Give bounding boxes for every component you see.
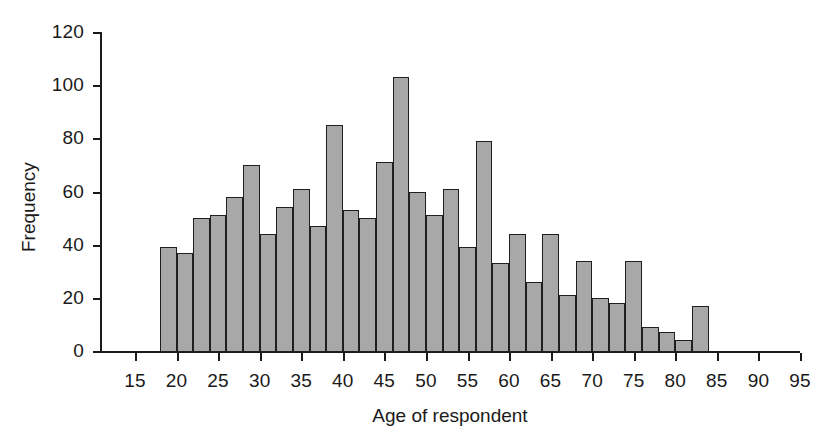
histogram-bar [542,234,559,352]
x-axis-tick [468,353,470,361]
histogram-bar [359,218,376,352]
x-axis-tick [218,353,220,361]
y-axis-tick [93,192,100,194]
x-axis-tick [384,353,386,361]
y-axis-tick [93,351,100,353]
histogram-bar [559,295,576,352]
x-axis-tick [717,353,719,361]
histogram-bar [476,141,493,352]
histogram-bar [260,234,277,352]
histogram-bar [343,210,360,352]
histogram-bar [243,165,260,352]
histogram-bar [409,192,426,353]
plot-area: 0204060801001201520253035404550556065707… [0,0,831,441]
y-axis-line [100,32,102,353]
histogram-bar [326,125,343,352]
y-axis-tick-label: 0 [22,341,84,360]
x-axis-tick [343,353,345,361]
histogram-bar [443,189,460,352]
histogram-bar [293,189,310,352]
x-axis-tick [426,353,428,361]
histogram-bar [177,253,194,352]
histogram-bar [659,332,676,352]
histogram-bar [393,77,410,352]
histogram-bar [625,261,642,352]
histogram-bar [609,303,626,352]
y-axis-tick-label: 80 [22,128,84,147]
y-axis-tick [93,298,100,300]
histogram-bar [642,327,659,352]
y-axis-tick-label: 20 [22,288,84,307]
x-axis-tick [758,353,760,361]
histogram-bar [276,207,293,352]
x-axis-tick-label: 95 [775,371,825,390]
x-axis-tick [509,353,511,361]
y-axis-tick [93,245,100,247]
y-axis-tick [93,32,100,34]
x-axis-tick [301,353,303,361]
x-axis-tick [135,353,137,361]
histogram-bar [226,197,243,352]
histogram-bar [592,298,609,352]
y-axis-tick-label: 120 [22,22,84,41]
y-axis-tick [93,85,100,87]
histogram-bar [459,247,476,352]
histogram-bar [310,226,327,352]
x-axis-tick [260,353,262,361]
histogram-bar [426,215,443,352]
histogram-figure: 0204060801001201520253035404550556065707… [0,0,831,441]
x-axis-tick [592,353,594,361]
histogram-bar [210,215,227,352]
histogram-bar [376,162,393,352]
histogram-bar [193,218,210,352]
x-axis-tick [675,353,677,361]
y-axis-tick [93,138,100,140]
histogram-bar [526,282,543,352]
histogram-bar [576,261,593,352]
histogram-bar [160,247,177,352]
x-axis-tick [634,353,636,361]
y-axis-title: Frequency [18,162,40,252]
histogram-bar [509,234,526,352]
x-axis-tick [800,353,802,361]
x-axis-tick [177,353,179,361]
histogram-bar [675,340,692,352]
histogram-bar [492,263,509,352]
histogram-bar [692,306,709,352]
x-axis-title: Age of respondent [330,405,570,427]
y-axis-tick-label: 100 [22,75,84,94]
x-axis-tick [551,353,553,361]
